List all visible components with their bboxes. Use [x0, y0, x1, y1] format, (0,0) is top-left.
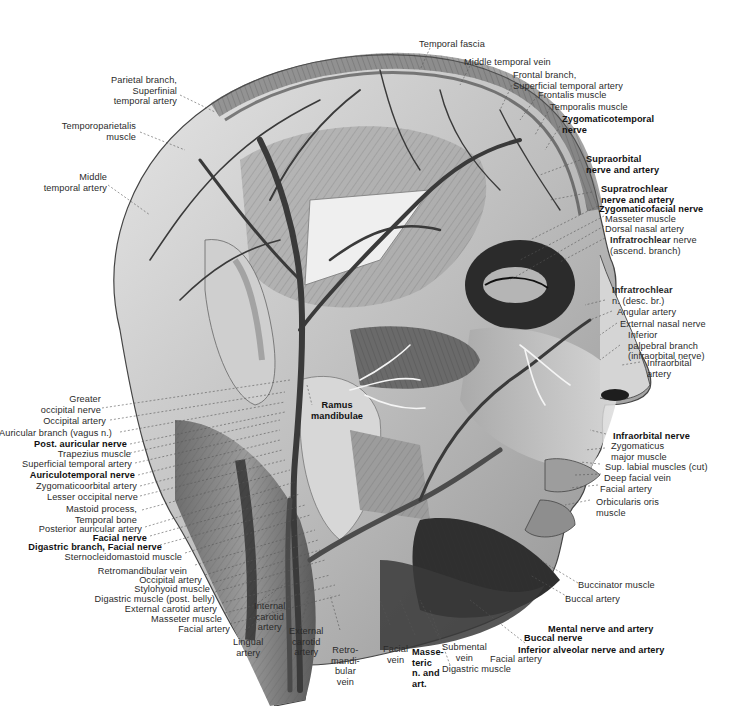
label-external-carotid-artery-left: External carotid artery — [125, 604, 217, 615]
label-occipital-artery-upper: Occipital artery — [43, 416, 106, 427]
label-infratrochlear-nerve-descending: Infratrochlear n. (desc. br.) — [612, 285, 673, 306]
label-lesser-occipital-nerve: Lesser occipital nerve — [47, 492, 138, 503]
label-zygomaticotemporal-nerve: Zygomaticotemporal nerve — [562, 114, 654, 135]
label-zygomaticus-major-muscle: Zygomaticus major muscle — [611, 441, 667, 462]
label-infratrochlear-desc-bold: Infratrochlear — [612, 285, 673, 295]
label-buccal-artery: Buccal artery — [565, 594, 620, 605]
label-temporoparietalis-muscle: Temporoparietalis muscle — [62, 121, 136, 142]
label-internal-carotid-artery: Internal carotid artery — [254, 601, 285, 633]
label-angular-artery: Angular artery — [617, 307, 676, 318]
label-masseter-muscle-right: Masseter muscle — [605, 214, 676, 225]
label-zygomaticoorbital-artery: Zygomaticoorbital artery — [36, 481, 137, 492]
label-post-auricular-nerve: Post. auricular nerve — [34, 439, 127, 450]
label-auriculotemporal-nerve: Auriculotemporal nerve — [30, 470, 135, 481]
label-infratrochlear-nerve-ascending: Infratrochlear nerve (ascend. branch) — [610, 235, 697, 256]
label-superficial-temporal-artery: Superficial temporal artery — [22, 459, 132, 470]
label-mastoid-process-temporal-bone: Mastoid process, Temporal bone — [66, 504, 137, 525]
label-orbicularis-oris-muscle: Orbicularis oris muscle — [596, 497, 659, 518]
label-deep-facial-vein: Deep facial vein — [604, 473, 671, 484]
label-sternocleidomastoid-muscle: Sternocleidomastoid muscle — [65, 552, 183, 563]
label-infraorbital-artery: Infraorbital artery — [647, 358, 692, 379]
label-frontalis-muscle: Frontalis muscle — [538, 90, 606, 101]
label-stylohyoid-muscle: Stylohyoid muscle — [134, 584, 210, 595]
label-masseteric-nerve-artery: Masse- teric n. and art. — [412, 647, 444, 689]
label-auricular-branch-vagus: Auricular branch (vagus n.) — [0, 428, 112, 439]
label-facial-artery-right: Facial artery — [600, 484, 652, 495]
label-buccinator-muscle: Buccinator muscle — [578, 580, 655, 591]
label-temporalis-muscle: Temporalis muscle — [550, 102, 628, 113]
label-middle-temporal-vein: Middle temporal vein — [464, 57, 551, 68]
label-supraorbital-nerve-artery: Supraorbital nerve and artery — [586, 154, 659, 175]
label-middle-temporal-artery: Middle temporal artery — [44, 172, 107, 193]
label-supratrochlear-nerve-artery: Supratrochlear nerve and artery — [601, 184, 674, 205]
label-submental-vein: Submental vein — [442, 642, 487, 663]
label-infraorbital-nerve: Infraorbital nerve — [613, 431, 690, 442]
label-lingual-artery: Lingual artery — [233, 637, 263, 658]
label-facial-artery-bottom: Facial artery — [490, 654, 542, 665]
label-zygomaticofacial-nerve: Zygomaticofacial nerve — [599, 204, 703, 215]
label-frontal-branch-sup-temporal-artery: Frontal branch, Superficial temporal art… — [513, 70, 623, 91]
label-external-carotid-artery-bottom: External carotid artery — [289, 626, 324, 658]
label-digastric-branch-facial-nerve: Digastric branch, Facial nerve — [28, 542, 162, 553]
label-ramus-mandibulae: Ramus mandibulae — [311, 400, 363, 421]
label-parietal-branch-sup-temporal-artery: Parietal branch, Superfinial temporal ar… — [111, 75, 177, 107]
label-infratrochlear-desc-rest: n. (desc. br.) — [612, 296, 664, 306]
anatomy-figure: Temporal fascia Middle temporal vein Fro… — [0, 0, 732, 706]
label-greater-occipital-nerve: Greater occipital nerve — [41, 394, 101, 415]
label-digastric-muscle-post-belly: Digastric muscle (post. belly) — [95, 594, 215, 605]
label-retromandibular-vein-bottom: Retro- mandi- bular vein — [331, 645, 360, 687]
label-inferior-palpebral-branch: Inferior palpebral branch (infraorbital … — [628, 330, 705, 362]
label-masseter-muscle-left: Masseter muscle — [151, 614, 222, 625]
label-facial-artery-left: Facial artery — [178, 624, 230, 635]
label-sup-labial-muscles-cut: Sup. labial muscles (cut) — [605, 462, 708, 473]
label-temporal-fascia: Temporal fascia — [419, 39, 485, 50]
label-digastric-muscle-bottom: Digastric muscle — [442, 664, 511, 675]
label-facial-vein: Facial vein — [383, 644, 408, 665]
label-buccal-nerve: Buccal nerve — [524, 633, 582, 644]
label-trapezius-muscle: Trapezius muscle — [58, 449, 131, 460]
label-infratrochlear-asc-bold: Infratrochlear — [610, 235, 671, 245]
label-dorsal-nasal-artery: Dorsal nasal artery — [605, 224, 684, 235]
label-external-nasal-nerve: External nasal nerve — [620, 319, 706, 330]
